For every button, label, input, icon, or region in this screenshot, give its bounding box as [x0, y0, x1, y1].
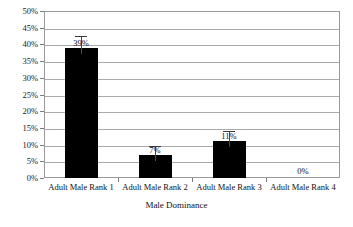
y-tick-mark — [40, 161, 44, 162]
y-tick-mark — [40, 11, 44, 12]
x-category-label: Adult Male Rank 1 — [44, 183, 118, 192]
x-tick-mark — [192, 178, 193, 182]
y-tick-label: 40% — [0, 40, 38, 49]
y-tick-mark — [40, 44, 44, 45]
bar-value-label: 39% — [61, 39, 101, 48]
y-tick-label: 10% — [0, 140, 38, 149]
y-tick-mark — [40, 178, 44, 179]
bar-value-label: 7% — [135, 146, 175, 155]
y-tick-mark — [40, 128, 44, 129]
bar-chart: 0%5%10%15%20%25%30%35%40%45%50% 39%7%11%… — [0, 0, 353, 227]
y-tick-label: 50% — [0, 7, 38, 16]
gridline — [45, 29, 339, 30]
x-axis-title: Male Dominance — [0, 201, 353, 210]
y-tick-mark — [40, 61, 44, 62]
y-tick-label: 0% — [0, 174, 38, 183]
y-tick-label: 20% — [0, 107, 38, 116]
y-tick-mark — [40, 95, 44, 96]
y-tick-label: 15% — [0, 124, 38, 133]
bar — [65, 48, 98, 178]
y-tick-mark — [40, 145, 44, 146]
y-tick-label: 30% — [0, 74, 38, 83]
bar-value-label: 0% — [283, 167, 323, 176]
x-category-label: Adult Male Rank 3 — [192, 183, 266, 192]
x-category-label: Adult Male Rank 2 — [118, 183, 192, 192]
y-tick-label: 5% — [0, 157, 38, 166]
y-tick-mark — [40, 111, 44, 112]
y-tick-label: 45% — [0, 23, 38, 32]
y-tick-mark — [40, 28, 44, 29]
bar-value-label: 11% — [209, 132, 249, 141]
y-tick-label: 35% — [0, 57, 38, 66]
y-tick-mark — [40, 78, 44, 79]
x-tick-mark — [266, 178, 267, 182]
x-category-label: Adult Male Rank 4 — [266, 183, 340, 192]
x-tick-mark — [118, 178, 119, 182]
y-tick-label: 25% — [0, 90, 38, 99]
error-bar-cap — [75, 36, 87, 37]
